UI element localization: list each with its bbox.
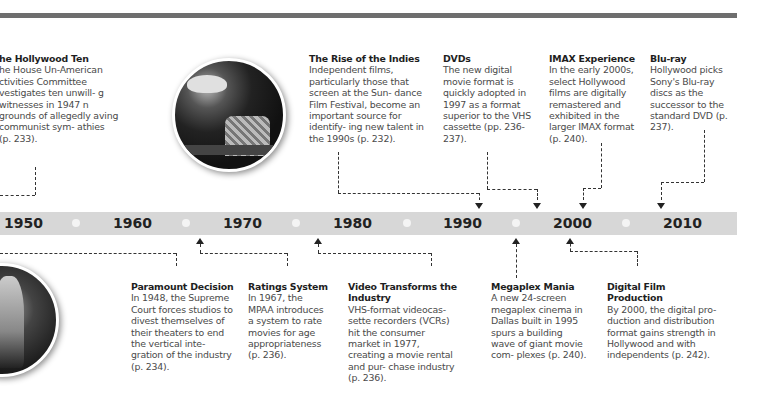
connector [318, 244, 319, 253]
connector [570, 251, 637, 252]
event-dvds: DVDs The new digital movie format is qui… [443, 53, 535, 144]
connector [176, 253, 177, 266]
event-title: Paramount Decision [131, 281, 239, 292]
event-hollywood-ten: he Hollywood Ten he House Un-American ct… [0, 53, 119, 144]
connector [661, 182, 662, 200]
year-1970: 1970 [223, 212, 262, 235]
connector [637, 251, 638, 266]
connector [200, 244, 201, 253]
connector [487, 189, 537, 190]
event-title: Video Transforms the Industry [348, 281, 458, 304]
event-desc: Independent films, particularly those th… [309, 64, 427, 144]
equipment-shape [185, 145, 280, 155]
connector [287, 253, 288, 266]
event-desc: Hollywood picks Sony's Blu-ray discs as … [650, 64, 732, 132]
connector [431, 253, 432, 266]
event-desc: The new digital movie format is quickly … [443, 64, 535, 144]
film-crew-photo [172, 58, 286, 172]
timeline-dot [292, 219, 300, 227]
connector [0, 195, 35, 196]
event-title: Megaplex Mania [491, 281, 589, 292]
event-digital-film-production: Digital Film Production By 2000, the dig… [607, 281, 719, 361]
event-megaplex-mania: Megaplex Mania A new 24-screen megaplex … [491, 281, 589, 361]
year-1960: 1960 [113, 212, 152, 235]
connector [0, 253, 176, 254]
top-rule [0, 13, 737, 18]
event-desc: In the early 2000s, select Hollywood fil… [549, 64, 647, 144]
connector [537, 189, 538, 200]
arrow-down-icon [533, 203, 541, 209]
connector [601, 143, 602, 188]
event-video-transforms: Video Transforms the Industry VHS-format… [348, 281, 458, 384]
event-desc: VHS-format videocas- sette recorders (VC… [348, 304, 458, 384]
arrow-down-icon [475, 203, 483, 209]
event-desc: In 1948, the Supreme Court forces studio… [131, 292, 239, 372]
year-2010: 2010 [663, 212, 702, 235]
event-desc: A new 24-screen megaplex cinema in Dalla… [491, 292, 589, 360]
connector [35, 167, 36, 195]
event-title: Blu-ray [650, 53, 732, 64]
arrow-down-icon [579, 203, 587, 209]
connector [570, 244, 571, 251]
year-1990: 1990 [443, 212, 482, 235]
hat-shape [187, 75, 227, 93]
event-title: The Rise of the Indies [309, 53, 427, 64]
timeline-dot [512, 219, 520, 227]
event-paramount-decision: Paramount Decision In 1948, the Supreme … [131, 281, 239, 372]
event-desc: In 1967, the MPAA introduces a system to… [248, 292, 330, 360]
connector [487, 152, 488, 189]
event-title: Ratings System [248, 281, 330, 292]
event-title: he Hollywood Ten [0, 53, 119, 64]
event-title: DVDs [443, 53, 535, 64]
connector [661, 182, 704, 183]
event-blu-ray: Blu-ray Hollywood picks Sony's Blu-ray d… [650, 53, 732, 133]
year-1980: 1980 [333, 212, 372, 235]
event-desc: By 2000, the digital pro- duction and di… [607, 304, 719, 361]
performer-figure [0, 276, 24, 368]
year-2000: 2000 [553, 212, 592, 235]
event-title: IMAX Experience [549, 53, 647, 64]
connector [704, 130, 705, 182]
event-ratings-system: Ratings System In 1967, the MPAA introdu… [248, 281, 330, 361]
timeline-dot [622, 219, 630, 227]
connector [338, 193, 479, 194]
vintage-performer-photo [0, 263, 59, 377]
event-imax: IMAX Experience In the early 2000s, sele… [549, 53, 647, 144]
connector [338, 152, 339, 193]
connector [318, 253, 431, 254]
event-rise-of-indies: The Rise of the Indies Independent films… [309, 53, 427, 144]
timeline-dot [403, 219, 411, 227]
connector [200, 253, 287, 254]
timeline-dot [182, 219, 190, 227]
connector [516, 244, 517, 278]
event-desc: he House Un-American ctivities Committee… [0, 64, 119, 144]
connector [583, 188, 601, 189]
year-1950: 1950 [4, 212, 43, 235]
event-title: Digital Film Production [607, 281, 719, 304]
arrow-down-icon [657, 203, 665, 209]
timeline-dot [72, 219, 80, 227]
connector [583, 188, 584, 200]
connector [479, 193, 480, 200]
